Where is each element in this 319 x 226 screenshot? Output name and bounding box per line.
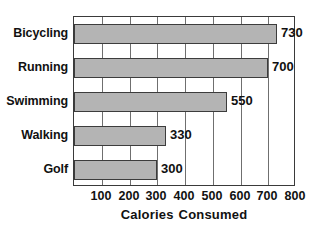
x-axis-title: CaloriesConsumed bbox=[73, 207, 295, 222]
bar-swimming bbox=[74, 92, 227, 112]
category-label-swimming: Swimming bbox=[6, 94, 68, 108]
value-label-golf: 300 bbox=[161, 161, 183, 177]
bar-golf bbox=[74, 160, 157, 180]
bar-walking bbox=[74, 126, 166, 146]
x-axis-title-word-2: Consumed bbox=[179, 207, 248, 222]
x-tick-label-800: 800 bbox=[275, 189, 315, 203]
value-label-running: 700 bbox=[272, 59, 294, 75]
plot-area bbox=[73, 16, 295, 186]
category-label-walking: Walking bbox=[21, 128, 68, 142]
category-label-golf: Golf bbox=[43, 162, 68, 176]
category-label-bicycling: Bicycling bbox=[13, 26, 68, 40]
bar-chart-figure: BicyclingRunningSwimmingWalkingGolf Calo… bbox=[0, 0, 319, 226]
x-axis-title-word-1: Calories bbox=[121, 207, 174, 222]
bar-running bbox=[74, 58, 268, 78]
bar-bicycling bbox=[74, 24, 277, 44]
value-label-walking: 330 bbox=[170, 127, 192, 143]
category-axis-labels: BicyclingRunningSwimmingWalkingGolf bbox=[0, 16, 70, 186]
value-label-swimming: 550 bbox=[231, 93, 253, 109]
value-label-bicycling: 730 bbox=[281, 25, 303, 41]
category-label-running: Running bbox=[18, 60, 68, 74]
